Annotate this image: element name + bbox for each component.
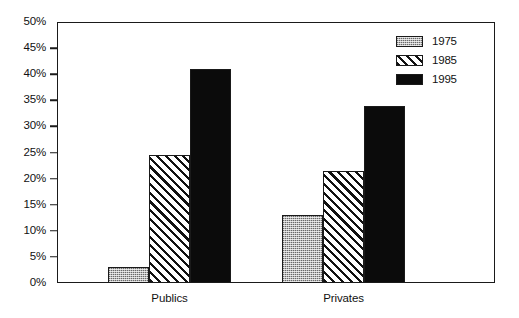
y-tick-mark [50, 47, 57, 49]
y-tick-label: 15% [24, 199, 46, 211]
y-tick-label: 10% [24, 225, 46, 237]
y-tick-label: 40% [24, 68, 46, 80]
y-tick-mark [50, 73, 57, 75]
legend-swatch-1985 [396, 55, 423, 66]
legend-item-1985: 1985 [396, 52, 484, 69]
y-tick-label: 45% [24, 42, 46, 54]
bar-publics-1975 [108, 267, 149, 283]
x-axis-label-privates: Privates [323, 292, 364, 304]
y-tick-label: 5% [30, 251, 46, 263]
bar-privates-1985 [323, 171, 364, 283]
y-tick-mark [50, 256, 57, 258]
bar-publics-1995 [190, 69, 231, 283]
y-tick-label: 25% [24, 147, 46, 159]
y-tick-mark [50, 100, 57, 102]
legend-swatch-1975 [396, 36, 423, 47]
y-tick-mark [50, 126, 57, 128]
bar-privates-1995 [364, 106, 405, 283]
y-axis: 0%5%10%15%20%25%30%35%40%45%50% [0, 22, 57, 283]
y-tick-label: 50% [24, 16, 46, 28]
y-tick-label: 0% [30, 277, 46, 289]
y-tick-mark [50, 178, 57, 180]
legend-label-1975: 1975 [432, 36, 457, 48]
chart-legend: 197519851995 [396, 33, 484, 90]
bar-publics-1985 [149, 155, 190, 283]
bar-privates-1975 [282, 215, 323, 283]
y-tick-mark [50, 152, 57, 154]
x-axis-label-publics: Publics [151, 292, 187, 304]
legend-item-1995: 1995 [396, 71, 484, 88]
y-tick-mark [50, 230, 57, 232]
y-tick-label: 20% [24, 173, 46, 185]
legend-item-1975: 1975 [396, 33, 484, 50]
legend-label-1995: 1995 [432, 74, 457, 86]
y-tick-label: 30% [24, 121, 46, 133]
y-tick-mark [50, 204, 57, 206]
y-tick-label: 35% [24, 95, 46, 107]
legend-label-1985: 1985 [432, 55, 457, 67]
legend-swatch-1995 [396, 74, 423, 85]
bar-chart: 0%5%10%15%20%25%30%35%40%45%50% PublicsP… [0, 0, 519, 318]
